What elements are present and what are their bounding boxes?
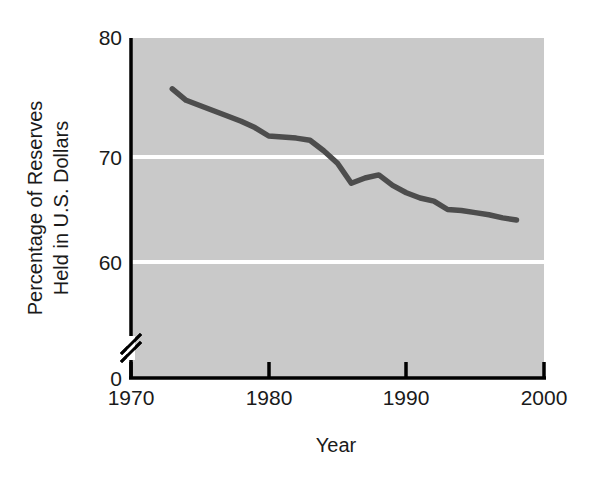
ytick-label-60: 60: [99, 251, 122, 274]
x-axis-title: Year: [316, 434, 357, 456]
plot-area-background: [131, 38, 544, 378]
ytick-label-80: 80: [99, 26, 122, 49]
chart-figure: 80 70 60 0 1970 1980 1990 2000 Year Perc…: [0, 0, 597, 485]
ytick-label-70: 70: [99, 146, 122, 169]
y-axis-title-line2: Held in U.S. Dollars: [50, 121, 72, 296]
xtick-label-1980: 1980: [246, 386, 293, 409]
xtick-label-2000: 2000: [521, 386, 568, 409]
y-axis-title-line1: Percentage of Reserves: [24, 101, 46, 316]
xtick-label-1990: 1990: [383, 386, 430, 409]
xtick-label-1970: 1970: [108, 386, 155, 409]
